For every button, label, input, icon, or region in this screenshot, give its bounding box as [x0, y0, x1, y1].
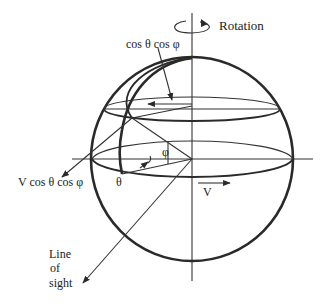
left-component-label: V cos θ cos φ [18, 175, 83, 189]
line-of-sight-arrow [83, 159, 192, 283]
latitude-radius [132, 106, 192, 118]
rotating-sphere-diagram: Rotation cos θ cos φ V cos θ cos φ θ φ V… [0, 0, 327, 306]
rotation-label: Rotation [219, 18, 264, 33]
top-component-label: cos θ cos φ [126, 37, 180, 51]
line-of-sight-label-2: of [50, 261, 60, 275]
velocity-label: V [203, 185, 212, 199]
line-of-sight-label-3: sight [49, 276, 73, 290]
top-label-pointer [158, 48, 172, 100]
theta-label: θ [116, 175, 122, 189]
theta-arc-tick [140, 162, 148, 168]
line-of-sight-label-1: Line [49, 247, 71, 261]
phi-label: φ [162, 145, 169, 159]
